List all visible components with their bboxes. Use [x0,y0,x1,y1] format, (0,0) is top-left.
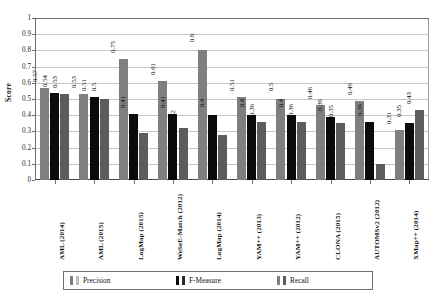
x-axis-tick [409,180,410,184]
x-axis-tick [134,180,135,184]
y-axis-tick-label: 0.9 [0,30,31,38]
bar-group: 0.610.410.32 [153,18,192,180]
x-axis-category-label: LogMap (2014) [215,184,223,260]
legend-label: F-Measure [189,276,221,285]
bar-value-label: 0.35 [334,116,341,128]
x-axis-category-label: AML (2015) [97,184,105,260]
bar-group: 0.310.350.43 [390,18,429,180]
chart-legend: PrecisionF-MeasureRecall [63,271,373,290]
x-axis-tick [252,180,253,184]
bar-value-label: 0.5 [97,94,104,103]
bar-precision[interactable]: 0.53 [79,94,88,180]
bar-f-measure[interactable]: 0.54 [50,93,59,180]
bar-value-label: 0.31 [392,123,399,135]
y-axis-tick-label: 0.2 [0,144,31,152]
x-axis-category-label: AUTOMSv2 (2012) [373,184,381,260]
bar-chart: ... 10.90.80.70.60.50.40.30.20.10 Score … [0,0,437,302]
y-axis-tick-label: 0.1 [0,160,31,168]
x-axis-ticks [35,180,429,185]
y-axis-title: Score [4,69,13,117]
legend-swatch-icon [70,276,73,285]
legend-swatch-icon [176,276,179,285]
bar-group: 0.750.410.29 [114,18,153,180]
x-axis-tick [291,180,292,184]
x-axis-tick [212,180,213,184]
x-axis-category-label: YAM++ (2013) [255,184,263,260]
bar-value-label: 0.51 [87,90,94,102]
bar-value-label: 0.29 [137,126,144,138]
legend-swatch-icon [76,276,79,285]
bar-value-label: 0.32 [176,121,183,133]
bar-value-label: 0.61 [156,74,163,86]
legend-label: Precision [83,276,111,285]
page-artifact-text: ... [6,1,11,6]
bar-f-measure[interactable]: 0.51 [90,97,99,180]
x-axis-tick [94,180,95,184]
bar-recall[interactable]: 0.36 [257,122,266,180]
legend-swatch-icon [182,276,185,285]
x-axis-tick [173,180,174,184]
y-axis-tick-label: 0.3 [0,127,31,135]
x-axis-category-label: XMap++ (2014) [412,184,420,260]
x-axis-tick [370,180,371,184]
bar-recall[interactable]: 0.43 [415,110,424,180]
legend-item-precision[interactable]: Precision [70,276,111,285]
x-axis-tick [55,180,56,184]
bar-value-label: 0.53 [58,87,65,99]
x-axis-category-label: CLONA (2015) [334,184,342,260]
y-axis-tick-label: 0 [0,176,31,184]
bar-recall[interactable]: 0.36 [297,122,306,180]
bar-groups: 0.570.540.530.530.510.50.750.410.290.610… [35,18,429,180]
bar-recall[interactable]: 0.32 [179,128,188,180]
legend-swatch-icon [277,276,280,285]
bar-value-label: 0.36 [363,115,370,127]
y-axis-tick-label: 1 [0,14,31,22]
bar-value-label: 0.43 [412,103,419,115]
bar-group: 0.570.540.53 [35,18,74,180]
bar-value-label: 0.35 [402,116,409,128]
bar-recall[interactable]: 0.5 [100,99,109,180]
bar-recall[interactable]: 0.1 [376,164,385,180]
bar-recall[interactable]: 0.28 [218,135,227,180]
x-axis-category-labels: AML (2014)AML (2015)LogMap (2015)WeSeE-M… [35,186,429,262]
x-axis-category-label: AML (2014) [58,184,66,260]
bar-group: 0.490.360.1 [350,18,389,180]
bar-value-label: 0.8 [195,45,202,54]
bar-recall[interactable]: 0.29 [139,133,148,180]
legend-item-f-measure[interactable]: F-Measure [176,276,221,285]
bar-value-label: 0.75 [116,52,123,64]
bar-value-label: 0.1 [373,159,380,168]
bar-group: 0.80.40.28 [193,18,232,180]
bar-value-label: 0.36 [255,115,262,127]
legend-item-recall[interactable]: Recall [277,276,309,285]
x-axis-category-label: LogMap (2015) [137,184,145,260]
bar-group: 0.530.510.5 [74,18,113,180]
bar-precision[interactable]: 0.57 [40,88,49,180]
legend-label: Recall [290,276,309,285]
bar-value-label: 0.28 [215,128,222,140]
bar-f-measure[interactable]: 0.35 [405,123,414,180]
bar-group: 0.50.40.36 [271,18,310,180]
x-axis-category-label: YAM++ (2012) [294,184,302,260]
bar-group: 0.510.40.36 [232,18,271,180]
bar-precision[interactable]: 0.31 [395,130,404,180]
legend-swatch-icon [283,276,286,285]
y-axis-tick-label: 0.8 [0,46,31,54]
x-axis-category-label: WeSeE-Match (2012) [176,184,184,260]
bar-recall[interactable]: 0.35 [336,123,345,180]
bar-recall[interactable]: 0.53 [60,94,69,180]
x-axis-tick [331,180,332,184]
bar-value-label: 0.36 [294,115,301,127]
bar-precision[interactable]: 0.75 [119,59,128,181]
bar-group: 0.460.390.35 [311,18,350,180]
